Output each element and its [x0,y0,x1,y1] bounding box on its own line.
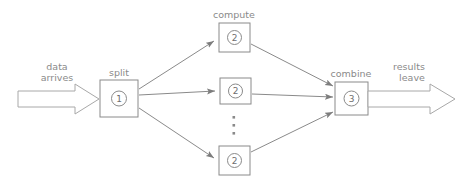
vertical-ellipsis-icon [233,116,236,135]
compute-node-bottom[interactable]: 2 [219,146,250,175]
output-flow-label-line1: results [393,61,425,72]
connector-compute-bottom-to-combine [251,112,333,152]
compute-group-label: compute [213,9,255,20]
compute-node-top-number: 2 [232,33,238,43]
input-flow-label-line1: data [46,61,67,72]
block-arrow-right-icon [368,84,455,114]
compute-node-middle[interactable]: 2 [220,78,251,104]
combine-node[interactable]: 3 [335,82,368,115]
connector-split-to-compute-bottom [139,108,214,158]
output-flow-arrow [368,84,455,114]
ellipsis-dot-1 [233,116,236,119]
flow-diagram: data arrives split 1 compute 2 2 [0,0,466,189]
connector-split-to-compute-top [139,41,214,89]
ellipsis-dot-3 [233,132,236,135]
split-node[interactable]: 1 [100,80,138,117]
diagram-canvas: data arrives split 1 compute 2 2 [0,0,466,189]
split-node-label: split [109,67,129,78]
compute-node-middle-number: 2 [233,86,239,96]
input-flow-arrow [18,84,99,114]
split-node-number: 1 [116,94,122,104]
input-flow-label-line2: arrives [41,72,74,83]
connector-compute-top-to-combine [251,44,333,86]
ellipsis-dot-2 [233,124,236,127]
connector-split-to-compute-middle [139,91,215,95]
output-flow-label-line2: leave [399,72,425,83]
combine-node-label: combine [331,68,372,79]
compute-node-top[interactable]: 2 [219,23,250,52]
block-arrow-right-icon [18,84,99,114]
connector-compute-middle-to-combine [252,94,333,97]
compute-node-bottom-number: 2 [232,156,238,166]
combine-node-number: 3 [349,94,355,104]
